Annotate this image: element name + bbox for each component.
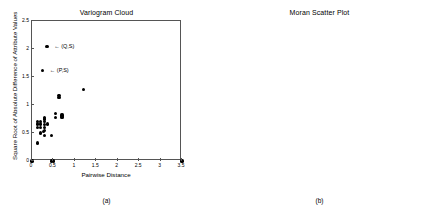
x-axis-tick-label: 3 <box>158 162 161 168</box>
data-point <box>54 116 57 119</box>
x-axis-tick-label: 1 <box>72 162 75 168</box>
data-point <box>82 88 85 91</box>
point-annotation: ← (Q,S) <box>54 43 74 49</box>
y-axis-tick-label: 2.5 <box>19 17 29 23</box>
panel-b-caption: (b) <box>213 197 426 204</box>
y-axis-tick-label: 1 <box>19 101 29 107</box>
y-axis-tick <box>31 20 34 21</box>
y-axis-tick-label: 1.5 <box>19 73 29 79</box>
data-point <box>60 113 63 116</box>
data-point <box>54 112 57 115</box>
y-axis-tick <box>31 160 34 161</box>
data-point <box>36 141 39 144</box>
data-point <box>46 122 49 125</box>
data-point <box>43 129 46 132</box>
x-axis-tick-label: 0 <box>30 162 33 168</box>
x-axis-tick <box>117 158 118 161</box>
x-axis-tick <box>181 158 182 161</box>
data-point <box>41 69 44 72</box>
y-axis-tick-label: 2 <box>19 45 29 51</box>
y-axis-tick <box>31 48 34 49</box>
x-axis-tick <box>95 158 96 161</box>
y-axis-tick <box>31 132 34 133</box>
y-axis-tick <box>31 76 34 77</box>
x-axis-tick <box>74 158 75 161</box>
data-point <box>57 94 60 97</box>
x-axis-tick <box>52 158 53 161</box>
x-axis-tick-label: 1.5 <box>92 162 99 168</box>
variogram-cloud-y-axis-title: Square Root of Absolute Difference of At… <box>11 20 18 160</box>
x-axis-tick-label: 0.5 <box>49 162 56 168</box>
panel-b-title: Moran Scatter Plot <box>213 9 426 16</box>
data-point <box>50 134 53 137</box>
panel-variogram-cloud: Variogram Cloud ← (Q,S)← (P,S) 00.511.52… <box>0 0 213 212</box>
x-axis-tick-label: 3.5 <box>178 162 185 168</box>
figure-container: Variogram Cloud ← (Q,S)← (P,S) 00.511.52… <box>0 0 426 212</box>
variogram-cloud-x-axis-title: Pairwise Distance <box>31 171 181 178</box>
y-axis-tick-label: 0.5 <box>19 129 29 135</box>
variogram-cloud-plot-area: ← (Q,S)← (P,S) <box>31 20 181 160</box>
x-axis-tick <box>138 158 139 161</box>
data-point <box>43 134 46 137</box>
data-point <box>39 126 42 129</box>
point-annotation: ← (P,S) <box>50 67 69 73</box>
x-axis-tick-label: 2.5 <box>135 162 142 168</box>
data-point <box>45 45 48 48</box>
panel-moran-scatter-plot: Moran Scatter Plot Q →P →S → −2−1.5−1−0.… <box>213 0 426 212</box>
x-axis-tick-label: 2 <box>115 162 118 168</box>
panel-a-title: Variogram Cloud <box>0 9 213 16</box>
x-axis-tick <box>160 158 161 161</box>
panel-a-caption: (a) <box>0 197 213 204</box>
data-point <box>43 126 46 129</box>
y-axis-tick-label: 0 <box>19 157 29 163</box>
y-axis-tick <box>31 104 34 105</box>
